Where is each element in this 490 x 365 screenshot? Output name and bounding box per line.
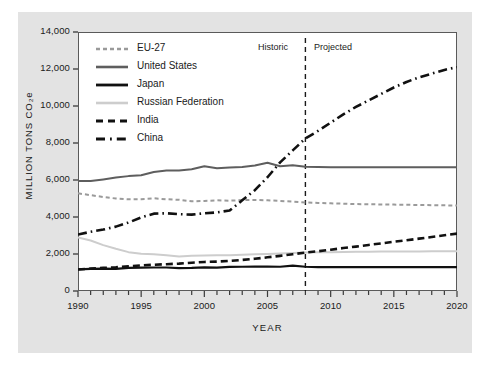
legend-swatch-icon xyxy=(96,77,128,89)
x-tick-label: 2015 xyxy=(369,300,419,311)
legend-label: Japan xyxy=(137,78,164,89)
legend-item-china: China xyxy=(96,128,266,146)
legend-item-india: India xyxy=(96,110,266,128)
legend-label: China xyxy=(137,132,163,143)
y-tick-label: 6,000 xyxy=(6,173,70,184)
annotation-projected: Projected xyxy=(314,42,352,52)
legend-swatch-icon xyxy=(96,131,128,143)
y-tick-label: 10,000 xyxy=(6,99,70,110)
y-tick-label: 4,000 xyxy=(6,210,70,221)
x-tick-label: 2000 xyxy=(179,300,229,311)
y-tick-label: 12,000 xyxy=(6,62,70,73)
y-tick-label: 0 xyxy=(6,284,70,295)
legend-label: EU-27 xyxy=(137,42,165,53)
legend-label: Russian Federation xyxy=(137,96,224,107)
y-tick-label: 2,000 xyxy=(6,247,70,258)
legend-item-united-states: United States xyxy=(96,56,266,74)
chart-legend: EU-27United StatesJapanRussian Federatio… xyxy=(96,38,266,146)
legend-item-japan: Japan xyxy=(96,74,266,92)
x-tick-label: 2010 xyxy=(306,300,356,311)
legend-swatch-icon xyxy=(96,95,128,107)
chart-figure: 02,0004,0006,0008,00010,00012,00014,0001… xyxy=(0,0,490,365)
x-tick-label: 1995 xyxy=(116,300,166,311)
x-tick-label: 2020 xyxy=(432,300,482,311)
x-tick-label: 1990 xyxy=(53,300,103,311)
y-tick-label: 8,000 xyxy=(6,136,70,147)
annotation-historic: Historic xyxy=(258,42,288,52)
series-line-eu-27 xyxy=(78,193,457,205)
legend-swatch-icon xyxy=(96,41,128,53)
legend-label: United States xyxy=(137,60,197,71)
y-axis-title: MILLION TONS CO₂e xyxy=(23,56,34,236)
x-axis-title: YEAR xyxy=(78,322,457,333)
x-tick-label: 2005 xyxy=(243,300,293,311)
legend-item-eu-27: EU-27 xyxy=(96,38,266,56)
legend-item-russian-federation: Russian Federation xyxy=(96,92,266,110)
legend-label: India xyxy=(137,114,159,125)
y-tick-label: 14,000 xyxy=(6,25,70,36)
legend-swatch-icon xyxy=(96,59,128,71)
legend-swatch-icon xyxy=(96,113,128,125)
